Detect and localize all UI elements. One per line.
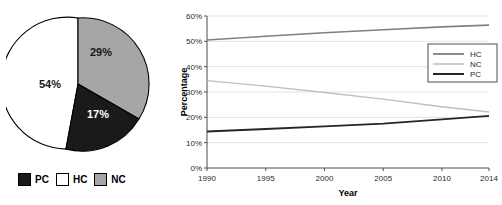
- x-tick-label: 2010: [433, 174, 451, 183]
- pie-legend-label-pc: PC: [35, 175, 49, 185]
- x-tick-label: 2000: [316, 174, 334, 183]
- y-axis-ticks: 0%10%20%30%40%50%60%: [186, 12, 207, 173]
- y-tick-label: 10%: [186, 139, 202, 148]
- pie-label-nc: 29%: [90, 46, 112, 58]
- pie-legend-item-nc[interactable]: NC: [94, 173, 125, 186]
- x-tick-label: 2014: [480, 174, 498, 183]
- y-tick-label: 50%: [186, 37, 202, 46]
- x-tick-label: 1995: [257, 174, 275, 183]
- figure-container: 54% 29% 17% PC HC NC 0%10%2: [0, 0, 502, 205]
- pie-label-pc: 17%: [87, 108, 109, 120]
- pie-legend-item-hc[interactable]: HC: [56, 173, 87, 186]
- legend-label-pc: PC: [470, 70, 481, 79]
- x-axis-title: Year: [338, 188, 358, 198]
- series-line-nc[interactable]: [207, 81, 489, 112]
- pie-legend-label-nc: NC: [111, 175, 125, 185]
- x-tick-label: 1990: [198, 174, 216, 183]
- pie-legend-swatch-hc: [56, 173, 69, 186]
- pie-legend-item-pc[interactable]: PC: [18, 173, 49, 186]
- line-chart-panel: 0%10%20%30%40%50%60% 1990199520002005201…: [176, 0, 502, 205]
- legend-box: [428, 44, 497, 82]
- pie-legend-swatch-pc: [18, 173, 31, 186]
- x-axis-ticks: 199019952000200520102014: [198, 168, 498, 183]
- y-tick-label: 0%: [190, 164, 202, 173]
- y-axis-title: Percentage: [179, 68, 189, 117]
- pie-legend: PC HC NC: [18, 173, 126, 186]
- line-legend: HC NC PC: [428, 44, 497, 82]
- line-chart: 0%10%20%30%40%50%60% 1990199520002005201…: [176, 0, 502, 205]
- series-line-hc[interactable]: [207, 25, 489, 40]
- legend-label-hc: HC: [470, 50, 482, 59]
- y-tick-label: 60%: [186, 12, 202, 21]
- pie-chart-panel: 54% 29% 17% PC HC NC: [0, 0, 176, 205]
- pie-label-hc: 54%: [39, 78, 61, 90]
- pie-legend-swatch-nc: [94, 173, 107, 186]
- pie-chart: 54% 29% 17%: [6, 12, 150, 156]
- pie-legend-label-hc: HC: [73, 175, 87, 185]
- legend-label-nc: NC: [470, 60, 482, 69]
- series-line-pc[interactable]: [207, 116, 489, 132]
- x-tick-label: 2005: [374, 174, 392, 183]
